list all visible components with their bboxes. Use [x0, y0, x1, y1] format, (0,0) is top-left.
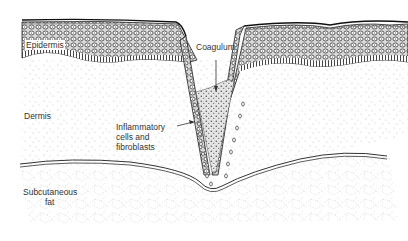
label-fat: fat [45, 197, 54, 207]
label-subcutaneous: Subcutaneous [23, 187, 77, 197]
label-coagulum: Coagulum [196, 42, 235, 52]
label-dermis: Dermis [24, 111, 51, 121]
skin-cross-section [0, 0, 408, 241]
label-fibroblasts: fibroblasts [116, 142, 155, 152]
label-epidermis: Epidermis [25, 40, 65, 50]
dermis-region-left [22, 60, 232, 175]
label-inflammatory: Inflammatory [116, 122, 165, 132]
label-cells-and: cells and [116, 132, 150, 142]
